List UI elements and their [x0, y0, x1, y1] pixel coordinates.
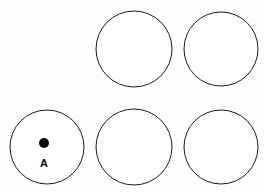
- point-marker-a-icon[interactable]: [39, 138, 49, 148]
- circle-top-right[interactable]: [184, 12, 258, 86]
- circle-top-middle[interactable]: [96, 11, 172, 87]
- circle-bottom-middle[interactable]: [96, 109, 172, 185]
- point-label-a: A: [40, 157, 48, 169]
- circle-bottom-right[interactable]: [184, 110, 258, 184]
- circle-grid-diagram: A: [0, 0, 265, 193]
- diagram-svg-root: A: [0, 0, 265, 193]
